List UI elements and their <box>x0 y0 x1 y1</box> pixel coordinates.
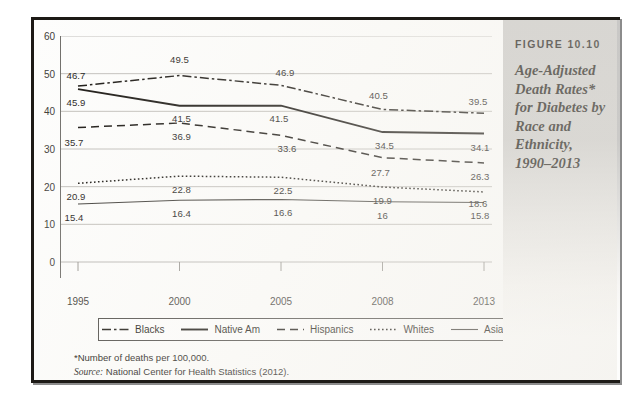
y-tick-label: 60 <box>44 31 55 42</box>
x-tick-label: 2005 <box>270 296 292 307</box>
value-label: 39.5 <box>468 96 487 107</box>
value-label: 18.6 <box>468 197 487 208</box>
legend-label: Blacks <box>135 324 164 335</box>
value-label: 15.4 <box>64 211 83 222</box>
value-label: 41.5 <box>172 112 191 123</box>
value-label: 49.5 <box>170 53 189 64</box>
value-label: 22.8 <box>172 184 191 195</box>
series-line-blacks <box>78 76 484 114</box>
figure-page: 0102030405060 19952000200520082013 46.74… <box>0 0 644 403</box>
figure-frame: 0102030405060 19952000200520082013 46.74… <box>31 17 620 383</box>
legend-swatch-solid-thin-icon <box>451 325 478 334</box>
legend-label: Native Am <box>214 324 260 335</box>
legend-item-blacks[interactable]: Blacks <box>102 324 164 335</box>
legend-swatch-solid-icon <box>181 325 208 334</box>
value-label: 27.7 <box>371 166 390 177</box>
source-word: Source: <box>74 367 103 377</box>
chart-legend: BlacksNative AmHispanicsWhitesAsians <box>98 318 518 341</box>
value-label: 45.9 <box>66 97 85 108</box>
series-line-asians <box>78 199 484 204</box>
value-label: 41.5 <box>269 112 288 123</box>
legend-item-native-am[interactable]: Native Am <box>181 324 260 335</box>
figure-number: FIGURE 10.10 <box>515 38 610 50</box>
chart-area: 0102030405060 19952000200520082013 46.74… <box>34 20 503 380</box>
footnotes: *Number of deaths per 100,000. Source: N… <box>74 352 474 377</box>
value-label: 16.4 <box>172 208 191 219</box>
y-tick-label: 30 <box>44 144 55 155</box>
value-label: 16.6 <box>273 207 292 218</box>
value-label: 40.5 <box>369 90 388 101</box>
plot-area: 0102030405060 19952000200520082013 46.74… <box>60 36 492 288</box>
legend-label: Hispanics <box>310 324 353 335</box>
value-label: 35.7 <box>64 136 83 147</box>
legend-item-hispanics[interactable]: Hispanics <box>277 324 353 335</box>
caption-panel: FIGURE 10.10 Age-Adjusted Death Rates* f… <box>503 20 620 380</box>
y-tick-label: 0 <box>49 257 55 268</box>
x-tick-label: 2000 <box>168 296 190 307</box>
figure-caption: Age-Adjusted Death Rates* for Diabetes b… <box>515 61 610 172</box>
value-label: 22.5 <box>273 185 292 196</box>
value-label: 16 <box>377 209 388 220</box>
legend-item-whites[interactable]: Whites <box>370 324 434 335</box>
x-tick-label: 2008 <box>371 296 393 307</box>
value-label: 34.5 <box>375 140 394 151</box>
value-label: 19.9 <box>373 195 392 206</box>
y-tick-label: 40 <box>44 106 55 117</box>
source-text: National Center for Health Statistics (2… <box>103 366 289 377</box>
value-label: 20.9 <box>66 191 85 202</box>
footnote-asterisk: *Number of deaths per 100,000. <box>74 352 474 363</box>
y-tick-label: 10 <box>44 219 55 230</box>
value-label: 46.7 <box>66 70 85 81</box>
x-tick-label: 1995 <box>67 296 89 307</box>
value-label: 46.9 <box>275 67 294 78</box>
legend-label: Whites <box>403 324 434 335</box>
y-tick-label: 20 <box>44 181 55 192</box>
legend-swatch-dash-dot-icon <box>102 325 129 334</box>
value-label: 15.8 <box>470 210 489 221</box>
footnote-source: Source: National Center for Health Stati… <box>74 366 474 377</box>
value-label: 33.6 <box>277 143 296 154</box>
x-tick-label: 2013 <box>473 296 495 307</box>
legend-swatch-dotted-icon <box>370 325 397 334</box>
y-tick-label: 50 <box>44 68 55 79</box>
legend-swatch-dashed-icon <box>277 325 304 334</box>
value-label: 34.1 <box>470 141 489 152</box>
value-label: 26.3 <box>470 170 489 181</box>
value-label: 36.9 <box>172 131 191 142</box>
